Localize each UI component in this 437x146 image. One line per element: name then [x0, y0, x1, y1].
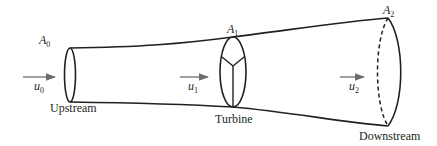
turbine-disc-icon [220, 37, 246, 107]
station-name-turbine: Turbine [215, 112, 253, 126]
stream-tube-diagram: A0 A1 A2 u0 u1 u2 Upstream Turbine Downs… [0, 0, 437, 146]
station-name-downstream: Downstream [359, 129, 421, 143]
velocity-label-upstream: u0 [34, 79, 44, 95]
velocity-label-downstream: u2 [349, 79, 359, 95]
area-label-upstream: A0 [38, 33, 50, 49]
downstream-cross-section-front [388, 18, 401, 126]
station-name-upstream: Upstream [50, 101, 97, 115]
upstream-cross-section [65, 48, 76, 102]
area-label-turbine: A1 [226, 22, 238, 38]
velocity-label-turbine: u1 [188, 79, 198, 95]
area-label-downstream: A2 [382, 3, 394, 19]
downstream-cross-section-back [378, 18, 389, 126]
